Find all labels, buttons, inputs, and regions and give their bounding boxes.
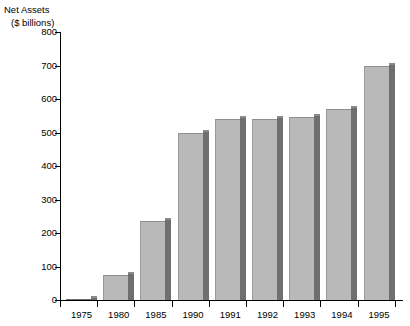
bar (178, 133, 203, 301)
bar-top-highlight (351, 106, 357, 108)
x-axis-tick (246, 301, 247, 307)
y-axis-tick-label: 200 (41, 227, 57, 238)
bar (364, 66, 389, 301)
bar-top-highlight (389, 63, 395, 65)
x-axis-tick (283, 301, 284, 307)
bar-shadow (240, 116, 246, 300)
x-axis-tick (358, 301, 359, 307)
bar (103, 275, 128, 300)
plot-area: 0100200300400500600700800 19751980198519… (60, 32, 403, 300)
x-axis-tick-label: 1995 (358, 309, 401, 320)
y-axis-tick-label: 300 (41, 194, 57, 205)
bar (252, 119, 277, 300)
bar-shadow (203, 130, 209, 301)
y-axis-tick-label: 0 (52, 294, 57, 305)
bar-top-highlight (203, 130, 209, 132)
x-axis-line (60, 300, 403, 301)
bar-top-highlight (165, 218, 171, 220)
bar-shadow (165, 218, 171, 300)
bar-shadow (314, 114, 320, 300)
bar (66, 299, 91, 300)
bar (215, 119, 240, 300)
bar-top-highlight (314, 114, 320, 116)
x-axis-tick (134, 301, 135, 307)
bar-top-highlight (240, 116, 246, 118)
bar-top-highlight (91, 296, 97, 298)
x-axis-tick (60, 301, 61, 307)
x-axis-tick (395, 301, 396, 307)
x-axis-tick (320, 301, 321, 307)
bar (326, 109, 351, 300)
y-axis-tick-label: 600 (41, 93, 57, 104)
bar (289, 117, 314, 300)
y-axis-tick-label: 800 (41, 26, 57, 37)
y-axis-line (60, 32, 61, 301)
y-axis-tick-label: 400 (41, 160, 57, 171)
x-axis-tick (97, 301, 98, 307)
bar (140, 221, 165, 300)
y-axis-tick-label: 500 (41, 127, 57, 138)
x-axis-tick (209, 301, 210, 307)
y-axis-tick-label: 100 (41, 261, 57, 272)
y-axis-title-line1: Net Assets (4, 3, 54, 16)
bar-chart: Net Assets ($ billions) 0100200300400500… (0, 0, 410, 326)
bar-top-highlight (277, 116, 283, 118)
bar-top-highlight (128, 272, 134, 274)
y-axis-tick-label: 700 (41, 60, 57, 71)
bar-shadow (389, 63, 395, 301)
x-axis-tick (172, 301, 173, 307)
bar-shadow (351, 106, 357, 300)
bar-shadow (277, 116, 283, 300)
bar-shadow (128, 272, 134, 300)
